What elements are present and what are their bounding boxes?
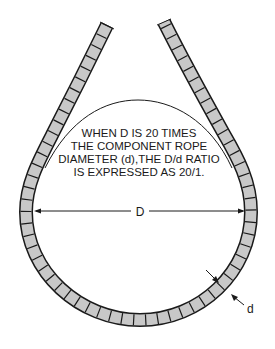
arrowhead-left-icon xyxy=(34,209,41,214)
arrowhead-right-icon xyxy=(238,209,245,214)
caption-line-1: WHEN D IS 20 TIMES xyxy=(82,127,197,139)
caption: WHEN D IS 20 TIMES THE COMPONENT ROPE DI… xyxy=(58,127,219,178)
caption-line-4: IS EXPRESSED AS 20/1. xyxy=(73,166,204,178)
caption-line-2: THE COMPONENT ROPE xyxy=(71,140,208,152)
rope-loop-diagram: WHEN D IS 20 TIMES THE COMPONENT ROPE DI… xyxy=(0,0,275,349)
sheave-diameter-dimension: D xyxy=(34,205,245,219)
sheave-diameter-label: D xyxy=(136,205,145,219)
rope-diameter-label: d xyxy=(247,302,254,316)
caption-line-3: DIAMETER (d),THE D/d RATIO xyxy=(58,153,219,165)
